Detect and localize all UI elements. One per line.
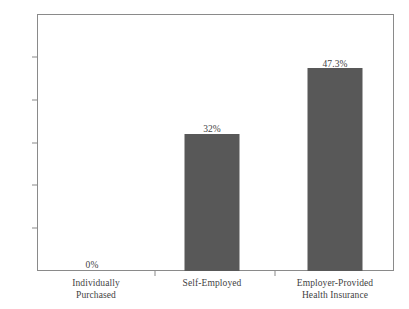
value-label-employer-provided: 47.3% bbox=[322, 59, 347, 69]
x-tickmark-2 bbox=[275, 271, 276, 276]
category-label-line: Self-Employed bbox=[183, 278, 242, 290]
bar-employer-provided-health-insurance[interactable] bbox=[308, 68, 363, 271]
category-label-line: Employer-Provided bbox=[297, 278, 373, 290]
category-label-line: Purchased bbox=[72, 290, 120, 302]
category-label-line: Individually bbox=[72, 278, 120, 290]
x-tickmark-1 bbox=[155, 271, 156, 276]
category-label-self-employed: Self-Employed bbox=[183, 278, 242, 290]
bar-chart: 0% 10% 20% 30% 40% 50% 60% bbox=[0, 0, 409, 309]
y-axis: 0% 10% 20% 30% 40% 50% 60% bbox=[0, 0, 37, 309]
value-label-individually-purchased: 0% bbox=[86, 260, 99, 270]
category-label-line: Health Insurance bbox=[297, 290, 373, 302]
value-label-self-employed: 32% bbox=[203, 124, 221, 134]
category-label-employer-provided: Employer-Provided Health Insurance bbox=[297, 278, 373, 301]
bar-self-employed[interactable] bbox=[185, 134, 240, 271]
bars-layer bbox=[37, 14, 394, 271]
category-label-individually-purchased: Individually Purchased bbox=[72, 278, 120, 301]
